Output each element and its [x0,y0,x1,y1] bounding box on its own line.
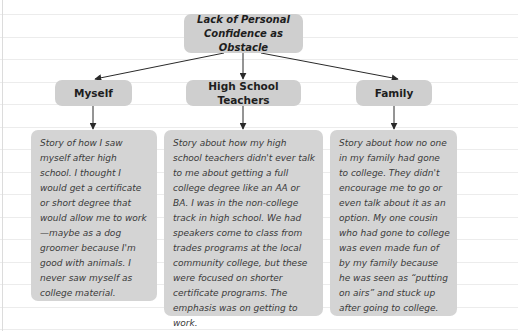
root-node: Lack of Personal Confidence as Obstacle [184,14,303,53]
category-label: High School Teachers [186,79,301,107]
description-box-family: Story about how no one in my family had … [330,130,457,316]
category-node-myself: Myself [55,80,132,106]
category-label: Myself [74,86,113,100]
description-text: Story about how my high school teachers … [173,138,315,328]
description-text: Story about how no one in my family had … [339,138,450,313]
category-label: Family [375,86,414,100]
description-text: Story of how I saw myself after high sch… [40,138,147,298]
arrow-root-to-family [261,53,398,79]
category-node-teachers: High School Teachers [186,80,301,106]
description-box-teachers: Story about how my high school teachers … [164,130,323,316]
category-node-family: Family [356,80,432,106]
arrow-root-to-myself [95,53,224,79]
root-label-line2: Confidence as Obstacle [184,27,303,55]
description-box-myself: Story of how I saw myself after high sch… [31,130,157,301]
root-label-line1: Lack of Personal [184,13,303,27]
